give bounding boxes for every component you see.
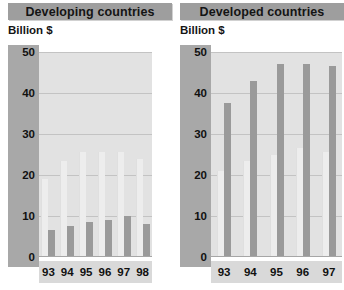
y-tick-30: 30 (194, 128, 207, 140)
x-axis-baseline (39, 256, 152, 257)
bar-dark-93 (48, 230, 55, 257)
bar-dark-94 (67, 226, 74, 257)
plot-area (39, 52, 152, 257)
y-axis-unit-label: Billion $ (8, 24, 53, 36)
chart-figure: Developing countries Billion $ 50 40 30 … (0, 0, 344, 290)
bar-light-96 (296, 148, 303, 257)
bar-group-95 (77, 52, 96, 257)
bar-dark-94 (250, 81, 257, 257)
panel-developed-countries: Developed countries Billion $ 50 40 30 2… (172, 0, 344, 290)
panel-developing-countries: Developing countries Billion $ 50 40 30 … (0, 0, 172, 290)
x-tick-95: 95 (77, 266, 96, 278)
panel-title-bar: Developing countries (8, 3, 172, 20)
x-tick-93: 93 (211, 266, 237, 278)
bar-dark-97 (124, 216, 131, 257)
y-tick-10: 10 (194, 210, 207, 222)
x-tick-97: 97 (316, 266, 342, 278)
bar-group-95 (263, 52, 289, 257)
x-tick-97: 97 (114, 266, 133, 278)
bar-dark-97 (329, 66, 336, 257)
bar-group-93 (211, 52, 237, 257)
x-tick-96: 96 (290, 266, 316, 278)
x-tick-93: 93 (39, 266, 58, 278)
bar-series-container (211, 52, 342, 257)
bar-light-97 (322, 152, 329, 257)
bar-dark-96 (303, 64, 310, 257)
panel-title: Developing countries (25, 5, 154, 19)
bar-group-94 (58, 52, 77, 257)
x-tick-94: 94 (58, 266, 77, 278)
y-tick-50: 50 (22, 46, 35, 58)
bar-group-93 (39, 52, 58, 257)
plot-area (211, 52, 342, 257)
bar-light-94 (60, 161, 67, 257)
y-tick-20: 20 (22, 169, 35, 181)
y-tick-30: 30 (22, 128, 35, 140)
y-tick-0: 0 (29, 251, 35, 263)
y-tick-40: 40 (194, 87, 207, 99)
x-axis-baseline (211, 256, 342, 257)
bar-light-96 (98, 152, 105, 257)
x-tick-96: 96 (95, 266, 114, 278)
bar-light-93 (41, 179, 48, 257)
y-axis-unit-label: Billion $ (180, 24, 225, 36)
panel-title: Developed countries (200, 5, 325, 19)
panel-title-bar: Developed countries (180, 3, 344, 20)
bar-light-93 (217, 171, 224, 257)
bar-dark-95 (86, 222, 93, 257)
y-axis-strip: 50 40 30 20 10 0 (180, 45, 211, 267)
x-tick-94: 94 (237, 266, 263, 278)
bar-light-95 (79, 152, 86, 257)
bar-group-98 (133, 52, 152, 257)
bar-group-96 (290, 52, 316, 257)
bar-light-97 (117, 152, 124, 257)
bar-light-95 (270, 155, 277, 258)
bar-group-94 (237, 52, 263, 257)
y-tick-50: 50 (194, 46, 207, 58)
x-axis-strip: 93 94 95 96 97 98 (39, 261, 152, 283)
y-tick-10: 10 (22, 210, 35, 222)
bar-group-97 (316, 52, 342, 257)
bar-dark-96 (105, 220, 112, 257)
x-tick-98: 98 (133, 266, 152, 278)
bar-group-97 (114, 52, 133, 257)
bar-dark-95 (277, 64, 284, 257)
x-axis-strip: 93 94 95 96 97 (211, 261, 342, 283)
y-tick-20: 20 (194, 169, 207, 181)
y-axis-strip: 50 40 30 20 10 0 (8, 45, 39, 267)
y-tick-40: 40 (22, 87, 35, 99)
bar-light-98 (136, 159, 143, 257)
bar-dark-98 (143, 224, 150, 257)
x-tick-95: 95 (263, 266, 289, 278)
bar-group-96 (95, 52, 114, 257)
bar-light-94 (243, 161, 250, 257)
y-tick-0: 0 (201, 251, 207, 263)
bar-series-container (39, 52, 152, 257)
bar-dark-93 (224, 103, 231, 257)
